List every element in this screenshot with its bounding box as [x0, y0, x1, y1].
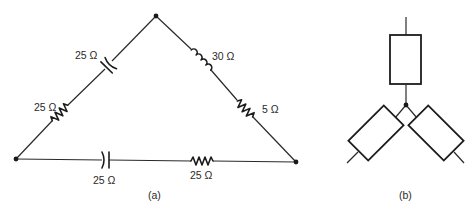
wire	[156, 16, 191, 49]
wire	[347, 152, 358, 163]
panel-b-caption: (b)	[399, 189, 412, 201]
impedance-box-lower-left	[348, 105, 403, 160]
impedance-box-top	[390, 35, 421, 84]
right-resistor-label: 5 Ω	[262, 103, 279, 115]
wire	[454, 152, 464, 163]
wire	[16, 121, 52, 159]
impedance-box-lower-right	[408, 105, 463, 160]
left-branch	[16, 16, 156, 159]
panel-a-delta-network: 25 Ω 25 Ω 30 Ω 5 Ω 25 Ω 25 Ω (a)	[14, 14, 299, 201]
node-top	[154, 14, 159, 19]
wire	[109, 160, 191, 161]
inductor-icon	[191, 47, 213, 70]
capacitor-icon	[102, 152, 109, 168]
wire	[112, 16, 156, 61]
panel-a-caption: (a)	[148, 189, 161, 201]
node-star-center	[404, 103, 409, 108]
circuit-figure: 25 Ω 25 Ω 30 Ω 5 Ω 25 Ω 25 Ω (a) (b)	[0, 0, 472, 212]
node-bottom-right	[294, 160, 299, 165]
left-capacitor-label: 25 Ω	[75, 49, 98, 61]
wire	[16, 159, 102, 160]
resistor-icon	[234, 98, 255, 119]
wire	[253, 117, 296, 162]
wire	[213, 161, 296, 162]
resistor-icon	[191, 157, 213, 165]
wire	[68, 69, 105, 105]
bottom-resistor-label: 25 Ω	[190, 169, 213, 181]
right-branch	[156, 16, 296, 162]
wire	[395, 105, 406, 118]
bottom-capacitor-label: 25 Ω	[93, 174, 116, 186]
left-resistor-label: 25 Ω	[34, 101, 57, 113]
node-bottom-left	[14, 157, 19, 162]
wire	[211, 70, 237, 100]
panel-b-star-network: (b)	[347, 17, 464, 201]
right-inductor-label: 30 Ω	[212, 50, 235, 62]
bottom-branch	[16, 152, 296, 168]
wire	[406, 105, 417, 118]
